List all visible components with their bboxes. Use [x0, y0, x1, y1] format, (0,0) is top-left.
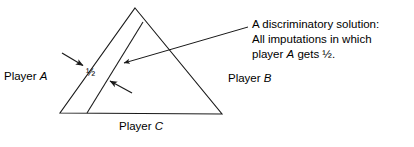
label-player-c-text: Player [119, 120, 155, 132]
annotation-line-1: A discriminatory solution: [252, 17, 379, 32]
label-player-b: Player B [228, 71, 271, 85]
band-arrow-lower-right-icon [110, 81, 132, 93]
annotation-line-2: All imputations in which [252, 32, 379, 47]
label-player-b-text: Player [228, 72, 264, 84]
label-player-a-symbol: A [40, 70, 48, 82]
label-player-c-symbol: C [155, 120, 163, 132]
discriminatory-solution-figure: Player A Player B Player C ½ A discrimin… [0, 0, 414, 147]
label-player-b-symbol: B [264, 72, 272, 84]
main-triangle-outline [60, 8, 222, 114]
annotation-line-3-suffix: gets ½. [294, 48, 335, 60]
band-arrow-upper-left-icon [62, 53, 83, 66]
label-player-a-text: Player [4, 70, 40, 82]
label-half-fraction: ½ [86, 66, 95, 78]
callout-arrow [124, 27, 248, 63]
label-player-a: Player A [4, 69, 47, 83]
annotation-line-3: player A gets ½. [252, 47, 379, 62]
annotation-line-3-prefix: player [252, 48, 287, 60]
label-player-c: Player C [119, 119, 163, 133]
annotation-callout: A discriminatory solution: All imputatio… [252, 17, 379, 62]
